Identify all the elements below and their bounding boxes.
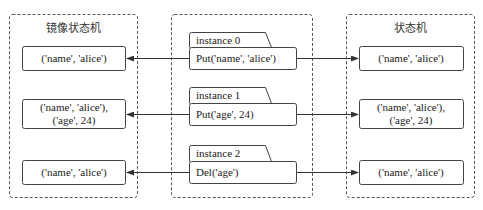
instance-1: instance 1 Put('age', 24) — [190, 88, 297, 126]
state-text-1b: ('age', 24) — [389, 114, 432, 127]
state-text-1a: ('name', 'alice'), — [377, 101, 445, 114]
instance-2-op: Del('age') — [196, 166, 239, 179]
instance-0-op: Put('name', 'alice') — [196, 52, 276, 65]
mirror-state-text-1b: ('age', 24) — [52, 114, 95, 127]
instance-1-op: Put('age', 24) — [196, 108, 254, 121]
state-machine-title: 状态机 — [394, 21, 427, 35]
mirror-state-text-1a: ('name', 'alice'), — [40, 101, 108, 114]
instance-2-label: instance 2 — [196, 147, 240, 159]
instance-0-label: instance 0 — [196, 34, 241, 46]
replication-diagram: 镜像状态机 状态机 ('name', 'alice') ('name', 'al… — [0, 0, 483, 210]
instance-0: instance 0 Put('name', 'alice') — [190, 33, 297, 70]
state-text-0: ('name', 'alice') — [378, 52, 444, 65]
mirror-state-machine-title: 镜像状态机 — [46, 21, 101, 35]
instance-2: instance 2 Del('age') — [190, 146, 297, 184]
mirror-state-text-0: ('name', 'alice') — [41, 52, 107, 65]
state-text-2: ('name', 'alice') — [378, 166, 444, 179]
mirror-state-text-2: ('name', 'alice') — [41, 166, 107, 179]
instance-1-label: instance 1 — [196, 89, 240, 101]
